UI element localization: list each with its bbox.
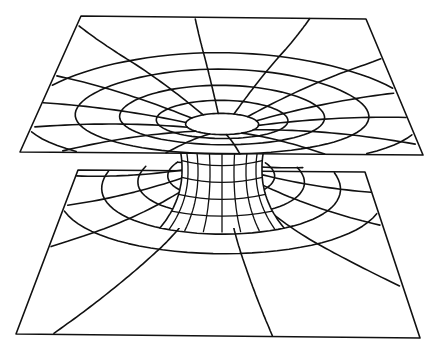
- upper-sheet: [20, 16, 423, 155]
- wormhole-illustration: [0, 0, 438, 352]
- wormhole-diagram: [0, 0, 438, 352]
